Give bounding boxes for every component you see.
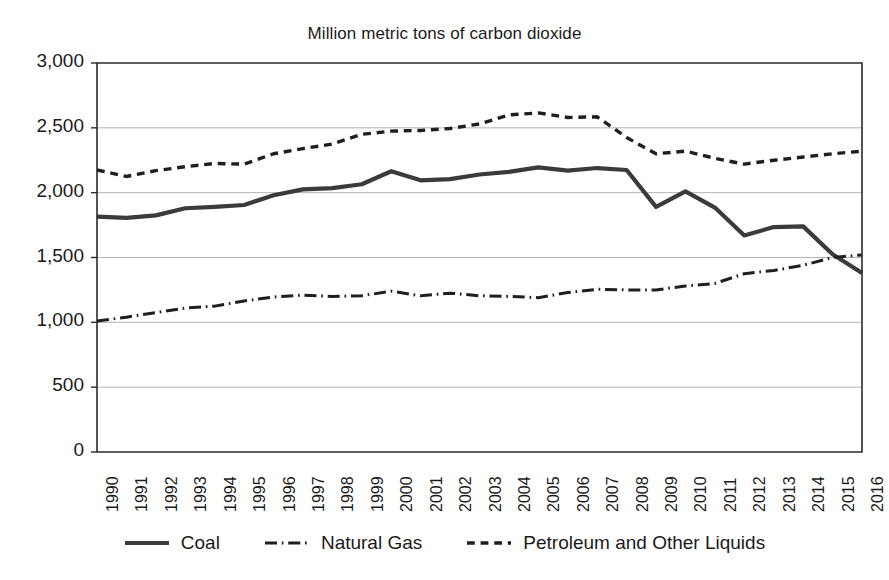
dashed-line-swatch: [466, 536, 512, 550]
x-axis-label: 2007: [604, 476, 622, 512]
y-axis-label: 1,500: [36, 245, 84, 267]
series-line-petroleum-and-other-liquids: [97, 113, 862, 177]
x-axis-label: 2015: [840, 476, 858, 512]
gridlines-group: [97, 128, 862, 387]
legend-label: Petroleum and Other Liquids: [523, 532, 765, 554]
x-axis-label: 1991: [133, 476, 151, 512]
x-axis-label: 2001: [428, 476, 446, 512]
x-axis-label: 1999: [369, 476, 387, 512]
legend-item[interactable]: Coal: [124, 532, 220, 554]
x-axis-label: 1993: [192, 476, 210, 512]
chart-container: Million metric tons of carbon dioxide 3,…: [0, 0, 889, 580]
y-axis-label: 3,000: [36, 50, 84, 72]
x-axis-label: 1998: [339, 476, 357, 512]
x-axis-label: 2016: [869, 476, 887, 512]
dashdot-line-swatch: [264, 536, 310, 550]
legend-label: Coal: [181, 532, 220, 554]
x-axis-label: 1990: [104, 476, 122, 512]
legend-label: Natural Gas: [321, 532, 422, 554]
solid-line-swatch: [124, 536, 170, 550]
x-axis-label: 2002: [457, 476, 475, 512]
y-axis-label: 500: [52, 374, 84, 396]
x-axis-label: 2013: [781, 476, 799, 512]
x-axis-label: 2009: [663, 476, 681, 512]
x-axis-label: 2000: [398, 476, 416, 512]
x-axis-label: 2004: [516, 476, 534, 512]
x-axis-label: 2010: [692, 476, 710, 512]
data-series-group: [97, 113, 862, 321]
x-axis-label: 2006: [575, 476, 593, 512]
y-axis-label: 2,000: [36, 180, 84, 202]
series-line-natural-gas: [97, 255, 862, 321]
legend-item[interactable]: Petroleum and Other Liquids: [466, 532, 765, 554]
x-axis-label: 1996: [281, 476, 299, 512]
x-axis-label: 1994: [222, 476, 240, 512]
x-axis-label: 2003: [487, 476, 505, 512]
x-axis-label: 2012: [751, 476, 769, 512]
x-axis-label: 2011: [722, 478, 740, 512]
chart-legend: CoalNatural GasPetroleum and Other Liqui…: [0, 532, 889, 554]
y-axis-label: 0: [73, 439, 84, 461]
chart-title: Million metric tons of carbon dioxide: [0, 24, 889, 44]
x-axis-label: 1995: [251, 476, 269, 512]
x-axis-label: 2014: [810, 476, 828, 512]
x-axis-label: 2008: [634, 476, 652, 512]
x-axis-label: 2005: [545, 476, 563, 512]
y-axis-label: 1,000: [36, 309, 84, 331]
y-axis-label: 2,500: [36, 115, 84, 137]
legend-item[interactable]: Natural Gas: [264, 532, 422, 554]
x-axis-label: 1992: [163, 476, 181, 512]
x-axis-label: 1997: [310, 476, 328, 512]
